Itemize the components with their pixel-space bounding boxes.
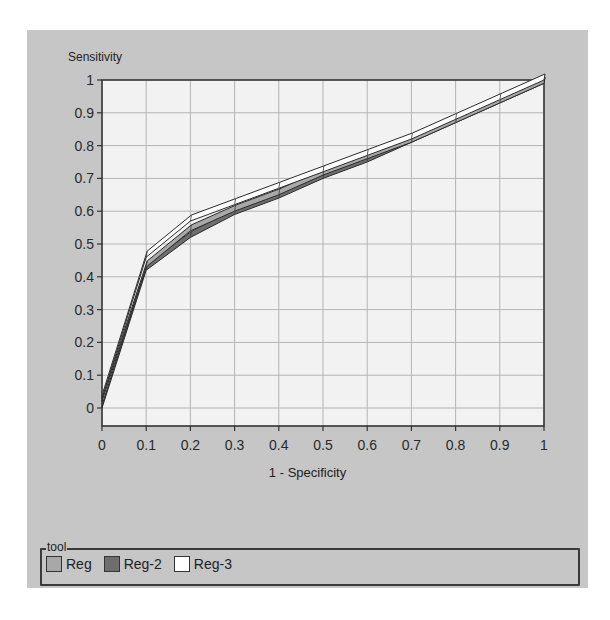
y-tick-label: 0.2 xyxy=(75,334,95,350)
legend-swatch-reg xyxy=(46,556,62,572)
x-tick-label: 0.2 xyxy=(181,437,201,453)
legend-items: Reg Reg-2 Reg-3 xyxy=(46,556,244,572)
y-tick-label: 0.6 xyxy=(75,203,95,219)
x-tick-label: 0 xyxy=(98,437,106,453)
roc-chart: 00.10.20.30.40.50.60.70.80.9100.10.20.30… xyxy=(27,30,588,530)
legend-swatch-reg-3 xyxy=(174,556,190,572)
y-tick-label: 0.9 xyxy=(75,105,95,121)
legend-swatch-reg-2 xyxy=(104,556,120,572)
x-tick-label: 0.3 xyxy=(225,437,245,453)
legend-box: tool Reg Reg-2 Reg-3 xyxy=(40,548,580,586)
x-tick-label: 0.9 xyxy=(490,437,510,453)
x-axis-title: 1 - Specificity xyxy=(27,465,588,480)
legend-item-reg[interactable]: Reg xyxy=(46,556,92,572)
y-tick-label: 1 xyxy=(86,72,94,88)
y-tick-label: 0 xyxy=(86,400,94,416)
legend-label: Reg xyxy=(66,556,92,572)
legend-label: Reg-3 xyxy=(194,556,232,572)
y-tick-label: 0.5 xyxy=(75,236,95,252)
x-tick-label: 0.5 xyxy=(313,437,333,453)
x-tick-label: 0.6 xyxy=(357,437,377,453)
y-tick-label: 0.4 xyxy=(75,269,95,285)
y-tick-label: 0.8 xyxy=(75,138,95,154)
x-tick-label: 0.1 xyxy=(136,437,156,453)
chart-panel: Sensitivity 00.10.20.30.40.50.60.70.80.9… xyxy=(27,30,588,588)
legend-item-reg-2[interactable]: Reg-2 xyxy=(104,556,162,572)
x-tick-label: 0.8 xyxy=(446,437,466,453)
x-tick-label: 0.4 xyxy=(269,437,289,453)
legend-title: tool xyxy=(46,540,67,554)
legend-item-reg-3[interactable]: Reg-3 xyxy=(174,556,232,572)
legend-label: Reg-2 xyxy=(124,556,162,572)
y-tick-label: 0.3 xyxy=(75,302,95,318)
x-tick-label: 1 xyxy=(540,437,548,453)
x-tick-label: 0.7 xyxy=(402,437,422,453)
clipped-page-heading xyxy=(150,0,400,6)
y-tick-label: 0.7 xyxy=(75,170,95,186)
y-tick-label: 0.1 xyxy=(75,367,95,383)
